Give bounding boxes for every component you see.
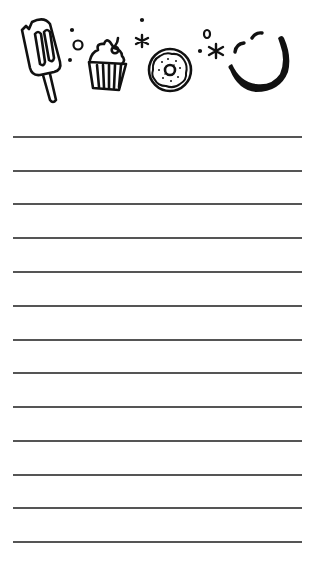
ruled-line: [13, 237, 302, 239]
ruled-line: [13, 541, 302, 543]
ruled-line: [13, 136, 302, 138]
ruled-line: [13, 170, 302, 172]
ruled-line: [13, 406, 302, 408]
ruled-line: [13, 203, 302, 205]
ruled-line: [13, 372, 302, 374]
ruled-line: [13, 271, 302, 273]
ruled-line: [13, 339, 302, 341]
ruled-lines: [0, 0, 318, 576]
ruled-line: [13, 474, 302, 476]
ruled-line: [13, 305, 302, 307]
ruled-line: [13, 440, 302, 442]
ruled-line: [13, 507, 302, 509]
